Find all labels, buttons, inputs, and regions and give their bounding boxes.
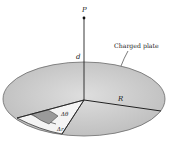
label-d: d [76,53,81,61]
plate-leader [121,51,128,66]
diagram-canvas: P d Charged plate R Δθ Δr [0,0,169,144]
label-delta-theta: Δθ [60,111,69,117]
point-p [83,17,86,20]
label-p: P [81,6,87,14]
label-charged-plate: Charged plate [114,42,159,50]
label-r: R [117,95,124,103]
label-delta-r: Δr [56,126,64,132]
charged-plate-diagram: P d Charged plate R Δθ Δr [0,0,169,144]
